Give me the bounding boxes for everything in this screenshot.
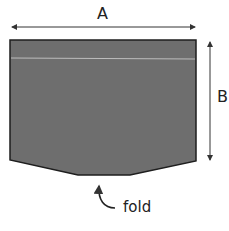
height-label: B [217,89,228,105]
fold-label: fold [123,199,151,215]
fabric-piece [10,40,196,175]
fold-pointer-arrow [99,186,115,208]
pattern-diagram [0,0,229,231]
width-label: A [97,6,108,22]
